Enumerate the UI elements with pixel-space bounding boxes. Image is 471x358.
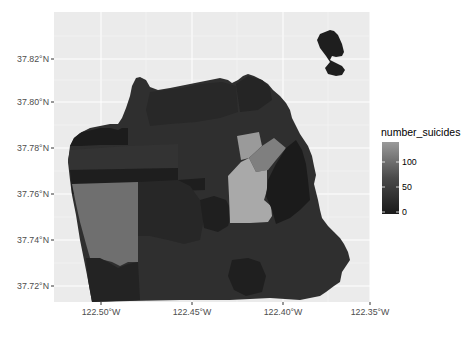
legend-colorbar — [382, 142, 399, 214]
y-axis-labels: 37.82°N 37.80°N 37.78°N 37.76°N 37.74°N … — [17, 54, 49, 291]
y-label-37-80: 37.80°N — [17, 97, 49, 107]
y-label-37-74: 37.74°N — [17, 235, 49, 245]
legend-title: number_suicides — [381, 126, 460, 138]
x-axis-ticks — [101, 302, 370, 305]
x-label-122-50: 122.50°W — [82, 307, 121, 317]
x-label-122-45: 122.45°W — [173, 307, 212, 317]
choropleth-map: 37.82°N 37.80°N 37.78°N 37.76°N 37.74°N … — [0, 0, 471, 358]
legend: number_suicides 100 50 0 — [381, 126, 460, 217]
x-axis-labels: 122.50°W 122.45°W 122.40°W 122.35°W — [82, 307, 390, 317]
y-label-37-76: 37.76°N — [17, 189, 49, 199]
y-label-37-72: 37.72°N — [17, 281, 49, 291]
y-label-37-78: 37.78°N — [17, 143, 49, 153]
legend-label-100: 100 — [402, 157, 417, 167]
x-label-122-35: 122.35°W — [351, 307, 390, 317]
y-axis-ticks — [51, 59, 54, 286]
y-label-37-82: 37.82°N — [17, 54, 49, 64]
legend-label-0: 0 — [402, 207, 407, 217]
legend-label-50: 50 — [402, 182, 412, 192]
x-label-122-40: 122.40°W — [264, 307, 303, 317]
